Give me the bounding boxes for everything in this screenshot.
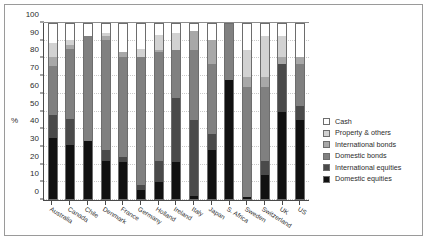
bar-column[interactable] — [189, 23, 199, 200]
stacked-bar[interactable] — [48, 23, 58, 200]
bar-segment — [261, 36, 269, 76]
stacked-bar[interactable] — [207, 23, 217, 200]
stacked-bar[interactable] — [65, 23, 75, 200]
legend-item[interactable]: Domestic bonds — [323, 152, 423, 161]
bar-column[interactable] — [295, 23, 305, 200]
bar-segment — [261, 161, 269, 175]
bar-column[interactable] — [207, 23, 217, 200]
bar-segment — [155, 161, 163, 182]
bar-segment — [155, 35, 163, 51]
bar-segment — [66, 145, 74, 199]
bar-segment — [296, 57, 304, 64]
bar-segment — [190, 50, 198, 120]
legend-item[interactable]: Property & others — [323, 129, 423, 138]
bar-segment — [49, 138, 57, 199]
bar-column[interactable] — [136, 23, 146, 200]
legend-swatch — [323, 153, 330, 160]
x-label-wrap: Denmark — [100, 206, 110, 242]
x-tick-label: UK — [279, 206, 290, 216]
bar-segment — [66, 119, 74, 145]
bar-segment — [119, 162, 127, 199]
bar-segment — [84, 36, 92, 141]
bar-segment — [278, 57, 286, 64]
bar-column[interactable] — [242, 23, 252, 200]
stacked-bar[interactable] — [242, 23, 252, 200]
bar-segment — [102, 161, 110, 200]
bar-column[interactable] — [48, 23, 58, 200]
legend-label: Domestic equities — [335, 175, 392, 182]
bar-segment — [278, 112, 286, 200]
stacked-bar[interactable] — [171, 23, 181, 200]
chart-frame: % 0102030405060708090100 AustraliaCanada… — [4, 4, 423, 236]
bar-segment — [49, 43, 57, 57]
x-label-wrap: Japan — [206, 206, 216, 242]
y-tick-label: 100 — [26, 11, 39, 19]
bar-segment — [296, 120, 304, 199]
legend-item[interactable]: Cash — [323, 117, 423, 126]
bar-column[interactable] — [83, 23, 93, 200]
bar-segment — [155, 52, 163, 161]
y-tick-label: 10 — [30, 170, 39, 178]
y-tick-label: 40 — [30, 117, 39, 125]
stacked-bar[interactable] — [136, 23, 146, 200]
stacked-bar[interactable] — [154, 23, 164, 200]
bar-segment — [102, 40, 110, 150]
x-axis-labels: AustraliaCanadaChileDenmarkFranceGermany… — [43, 206, 309, 242]
bar-segment — [296, 64, 304, 106]
x-label-wrap: Sweden — [242, 206, 252, 242]
stacked-bar[interactable] — [189, 23, 199, 200]
stacked-bar[interactable] — [118, 23, 128, 200]
bar-segment — [172, 162, 180, 199]
bar-column[interactable] — [224, 23, 234, 200]
bar-segment — [190, 120, 198, 195]
bar-segment — [208, 134, 216, 150]
bar-column[interactable] — [118, 23, 128, 200]
legend-label: International equities — [335, 164, 401, 171]
stacked-bar[interactable] — [295, 23, 305, 200]
y-tick-label: 90 — [30, 29, 39, 37]
stacked-bar[interactable] — [83, 23, 93, 200]
bar-column[interactable] — [171, 23, 181, 200]
bar-segment — [102, 150, 110, 161]
bar-column[interactable] — [65, 23, 75, 200]
bar-segment — [261, 87, 269, 161]
bar-segment — [49, 66, 57, 115]
legend-item[interactable]: Domestic equities — [323, 175, 423, 184]
x-label-wrap: Canada — [65, 206, 75, 242]
x-label-wrap: UK — [277, 206, 287, 242]
bar-segment — [243, 77, 251, 88]
plot-region: 0102030405060708090100 — [43, 23, 309, 201]
y-axis-label: % — [11, 116, 18, 125]
legend-label: International bonds — [335, 141, 396, 148]
bar-segment — [49, 24, 57, 43]
x-label-wrap: Holland — [153, 206, 163, 242]
bar-segment — [172, 24, 180, 33]
bar-segment — [225, 80, 233, 199]
bar-segment — [49, 115, 57, 138]
bar-segment — [243, 24, 251, 50]
bar-column[interactable] — [260, 23, 270, 200]
x-label-wrap: Switzerland — [259, 206, 269, 242]
x-label-wrap: US — [295, 206, 305, 242]
bar-column[interactable] — [277, 23, 287, 200]
bar-segment — [66, 24, 74, 40]
x-label-wrap: Italy — [189, 206, 199, 242]
bar-segment — [225, 24, 233, 80]
bar-segment — [261, 175, 269, 200]
bar-segment — [102, 24, 110, 33]
bar-segment — [137, 24, 145, 49]
stacked-bar[interactable] — [101, 23, 111, 200]
bar-column[interactable] — [154, 23, 164, 200]
bar-segment — [137, 57, 145, 185]
legend-item[interactable]: International bonds — [323, 140, 423, 149]
stacked-bar[interactable] — [224, 23, 234, 200]
bar-segment — [208, 40, 216, 65]
stacked-bar[interactable] — [260, 23, 270, 200]
bar-column[interactable] — [101, 23, 111, 200]
legend-item[interactable]: International equities — [323, 163, 423, 172]
stacked-bar[interactable] — [277, 23, 287, 200]
legend-label: Property & others — [335, 129, 391, 136]
x-tick-label: Italy — [190, 206, 204, 218]
bar-segment — [172, 98, 180, 163]
y-tick-label: 0 — [35, 188, 39, 196]
